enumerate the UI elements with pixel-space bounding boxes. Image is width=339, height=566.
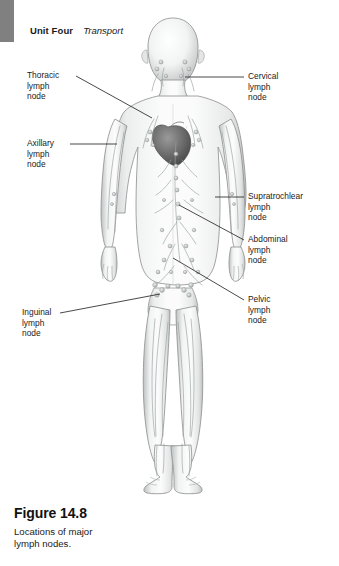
label-abdominal-lymph-node: Abdominal lymph node: [248, 234, 288, 266]
label-thoracic-lymph-node: Thoracic lymph node: [27, 70, 59, 102]
label-supratrochlear-lymph-node: Supratrochlear lymph node: [248, 191, 303, 223]
page-corner-tab: [0, 0, 14, 42]
figure-caption: Figure 14.8 Locations of major lymph nod…: [14, 505, 184, 550]
label-axillary-lymph-node: Axillary lymph node: [27, 138, 54, 170]
label-inguinal-lymph-node: Inguinal lymph node: [22, 307, 51, 339]
body-silhouette: [101, 18, 246, 494]
figure-caption-text: Locations of major lymph nodes.: [14, 526, 184, 550]
figure-page: Unit FourTransport: [0, 0, 339, 566]
label-pelvic-lymph-node: Pelvic lymph node: [248, 294, 270, 326]
figure-number: Figure 14.8: [14, 505, 184, 521]
label-cervical-lymph-node: Cervical lymph node: [248, 71, 278, 103]
